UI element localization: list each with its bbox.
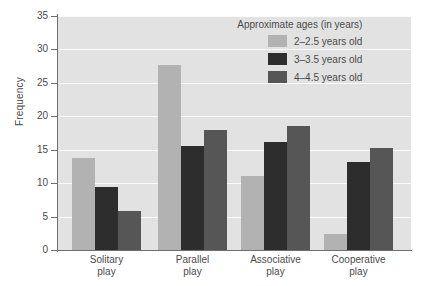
legend-color-swatch <box>268 71 287 83</box>
bar[interactable] <box>204 130 227 250</box>
x-category-label-line2: play <box>57 266 157 278</box>
bar[interactable] <box>347 162 370 250</box>
y-tick-label: 5 <box>4 211 48 222</box>
legend-entry[interactable]: 4–4.5 years old <box>236 71 362 83</box>
bar[interactable] <box>181 146 204 250</box>
legend-entries: 2–2.5 years old3–3.5 years old4–4.5 year… <box>236 35 362 83</box>
legend-entry-label: 4–4.5 years old <box>294 72 362 83</box>
legend-title: Approximate ages (in years) <box>236 19 362 30</box>
bar[interactable] <box>95 187 118 250</box>
y-tick-label: 0 <box>4 244 48 255</box>
y-tick-label: 10 <box>4 177 48 188</box>
legend-entry[interactable]: 2–2.5 years old <box>236 35 362 47</box>
y-tick-label: 35 <box>4 10 48 21</box>
bar[interactable] <box>287 126 310 250</box>
legend-entry-label: 3–3.5 years old <box>294 54 362 65</box>
y-tick-label: 20 <box>4 110 48 121</box>
bar[interactable] <box>370 148 393 250</box>
bar-group <box>158 16 227 250</box>
bar[interactable] <box>241 176 264 250</box>
y-tick-label: 30 <box>4 43 48 54</box>
x-category-label-line2: play <box>309 266 409 278</box>
bar[interactable] <box>264 142 287 250</box>
y-tick-label: 15 <box>4 144 48 155</box>
y-tick-label: 25 <box>4 77 48 88</box>
legend: Approximate ages (in years) 2–2.5 years … <box>236 19 362 89</box>
legend-entry-label: 2–2.5 years old <box>294 36 362 47</box>
legend-color-swatch <box>268 53 287 65</box>
y-axis-title: Frequency <box>14 57 25 147</box>
x-category-label-line1: Solitary <box>57 254 157 266</box>
legend-entry[interactable]: 3–3.5 years old <box>236 53 362 65</box>
bar[interactable] <box>118 211 141 250</box>
bar-chart: Frequency 05101520253035 SolitaryplayPar… <box>0 0 423 286</box>
bar-group <box>72 16 141 250</box>
bar[interactable] <box>158 65 181 250</box>
x-category-label-line1: Cooperative <box>309 254 409 266</box>
x-axis-line <box>57 250 412 251</box>
legend-color-swatch <box>268 35 287 47</box>
x-category-label: Cooperativeplay <box>309 254 409 277</box>
x-category-label: Solitaryplay <box>57 254 157 277</box>
bar[interactable] <box>72 158 95 250</box>
bar[interactable] <box>324 234 347 250</box>
